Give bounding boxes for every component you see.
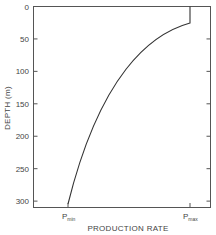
y-tick-label: 100 bbox=[16, 67, 30, 76]
pmin-label: Pmin bbox=[62, 212, 76, 222]
y-tick-label: 50 bbox=[20, 35, 29, 44]
x-axis-title: PRODUCTION RATE bbox=[87, 224, 168, 233]
y-tick-label: 0 bbox=[25, 3, 30, 12]
y-tick-label: 300 bbox=[16, 197, 30, 206]
depth-production-chart: 050100150200250300 Pmin Pmax PRODUCTION … bbox=[0, 0, 216, 235]
pmax-label: Pmax bbox=[183, 212, 198, 222]
y-tick-label: 250 bbox=[16, 165, 30, 174]
plot-frame bbox=[34, 7, 211, 208]
y-axis-title: DEPTH (m) bbox=[3, 86, 12, 130]
right-axis-ticks bbox=[207, 39, 211, 201]
y-tick-label: 200 bbox=[16, 132, 30, 141]
y-axis-ticks: 050100150200250300 bbox=[16, 3, 38, 207]
y-tick-label: 150 bbox=[16, 100, 30, 109]
production-curve bbox=[68, 7, 190, 205]
